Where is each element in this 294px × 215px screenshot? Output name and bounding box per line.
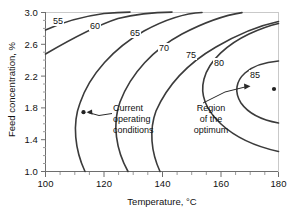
contour-chart-figure: 3.0 2.6 2.2 1.8 1.4 1.0 100 120 140 160 … [0,0,293,215]
y-axis-title: Feed concentration, % [6,35,17,145]
annotation-optimum-line2: of the [186,114,236,125]
marker-current-operating-conditions [81,110,85,114]
x-tick-label-100: 100 [26,178,66,189]
y-tick-label-3-0: 3.0 [8,7,38,18]
annotation-optimum-line3: optimum [186,125,236,136]
contour-label-80: 80 [213,58,225,68]
contour-label-75: 75 [185,50,197,60]
x-axis-title: Temperature, °C [45,196,279,207]
annotation-current-operating-conditions: Current operating conditions [113,103,154,136]
optimum-arrow-head [244,84,251,90]
contour-label-70: 70 [158,43,170,53]
contour-label-65: 65 [129,28,141,38]
contour-label-55: 55 [52,16,64,26]
contour-curves [46,12,279,171]
contour-label-60: 60 [89,21,101,31]
annotation-current-line3: conditions [113,125,154,136]
x-tick-label-160: 160 [201,178,241,189]
x-tick-label-120: 120 [84,178,124,189]
contour-label-85: 85 [249,70,261,80]
x-tick-label-140: 140 [143,178,183,189]
contour-60 [46,12,173,54]
annotation-current-line2: operating [113,114,154,125]
x-axis-major-ticks [46,172,279,177]
marker-region-of-the-optimum [272,87,276,91]
annotation-optimum-line1: Region [186,103,236,114]
y-tick-label-1-0: 1.0 [8,166,38,177]
current-arrow-head [87,110,93,115]
annotation-current-line1: Current [113,103,154,114]
annotation-region-of-the-optimum: Region of the optimum [186,103,236,136]
x-tick-label-180: 180 [259,178,294,189]
